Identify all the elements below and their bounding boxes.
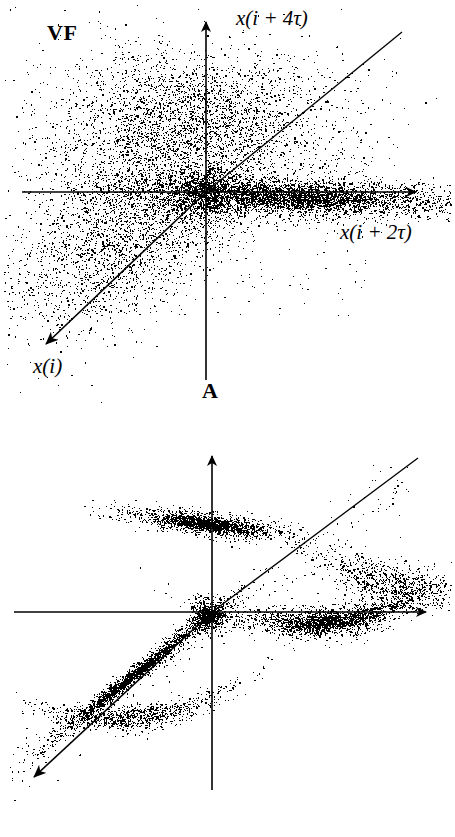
axis-label-x-a: x(i + 2τ) <box>340 222 412 243</box>
panel-letter-a: A <box>202 380 218 402</box>
axis-label-y-a: x(i + 4τ) <box>236 8 308 29</box>
panel-a-vf: VF x(i + 4τ) x(i + 2τ) x(i) A <box>0 0 455 420</box>
panel-a-plot <box>0 0 455 420</box>
axis-label-z-a: x(i) <box>33 356 62 377</box>
condition-label-vf: VF <box>47 22 77 44</box>
figure-root: VF x(i + 4τ) x(i + 2τ) x(i) A <box>0 0 455 837</box>
panel-b-plot <box>0 420 455 837</box>
scatter-points-a <box>4 5 452 403</box>
scatter-points-b <box>10 465 452 802</box>
panel-b-nsr: NSR x(i + 2τ) x(i + τ) x(i) B <box>0 420 455 837</box>
